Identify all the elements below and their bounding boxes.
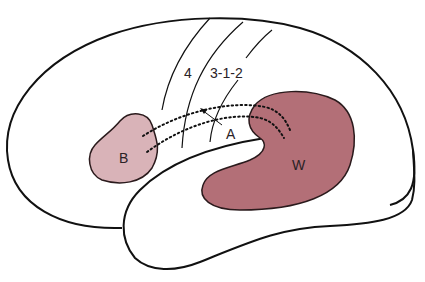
wernicke-area xyxy=(202,92,354,210)
brain-svg: 4 3-1-2 A B W xyxy=(0,0,425,282)
broca-area xyxy=(90,114,158,183)
brain-diagram: 4 3-1-2 A B W xyxy=(0,0,425,282)
label-somatosensory-area: 3-1-2 xyxy=(210,65,243,81)
label-wernicke: W xyxy=(292,157,306,173)
label-motor-area: 4 xyxy=(184,65,192,81)
sulcus-postcentral-upper xyxy=(246,30,272,58)
label-broca: B xyxy=(119,150,128,166)
sulcus-precentral xyxy=(162,18,210,110)
label-arcuate: A xyxy=(226,126,236,142)
